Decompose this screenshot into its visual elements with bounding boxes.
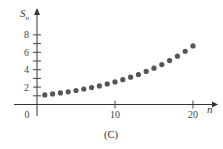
data-point <box>136 72 141 77</box>
data-point <box>183 49 188 54</box>
scatter-chart: 246801020 Sn n (C) <box>0 0 223 149</box>
data-point <box>144 69 149 74</box>
data-point <box>167 58 172 63</box>
axes: 246801020 <box>14 8 218 120</box>
x-axis-label: n <box>207 103 213 115</box>
x-tick-label: 0 <box>25 109 30 120</box>
data-point <box>81 87 86 92</box>
data-point <box>89 85 94 90</box>
data-point <box>50 91 55 96</box>
data-point <box>175 54 180 59</box>
y-tick-label: 4 <box>24 64 29 75</box>
x-tick-label: 10 <box>110 109 120 120</box>
y-tick-label: 8 <box>24 29 29 40</box>
data-point <box>128 75 133 80</box>
y-axis-label: Sn <box>20 7 30 22</box>
data-point <box>159 62 164 67</box>
data-point <box>58 90 63 95</box>
data-point <box>66 89 71 94</box>
data-points <box>42 43 195 97</box>
data-point <box>112 79 117 84</box>
x-tick-label: 20 <box>188 109 198 120</box>
data-point <box>97 83 102 88</box>
data-point <box>73 88 78 93</box>
data-point <box>151 66 156 71</box>
x-axis-arrow-icon <box>212 102 218 108</box>
data-point <box>190 43 195 48</box>
y-tick-label: 6 <box>24 47 29 58</box>
data-point <box>42 92 47 97</box>
axis-labels: Sn n (C) <box>20 7 213 141</box>
y-tick-label: 2 <box>24 82 29 93</box>
data-point <box>105 81 110 86</box>
y-axis-arrow-icon <box>34 8 40 15</box>
chart-caption: (C) <box>104 129 119 141</box>
data-point <box>120 77 125 82</box>
